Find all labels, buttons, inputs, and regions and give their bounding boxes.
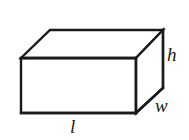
width-label: w	[155, 96, 168, 115]
rectangular-prism-figure: h w l	[0, 0, 189, 140]
rectangular-prism-svg	[0, 0, 189, 140]
length-label: l	[70, 117, 75, 136]
front-face	[21, 58, 136, 113]
height-label: h	[167, 45, 177, 64]
